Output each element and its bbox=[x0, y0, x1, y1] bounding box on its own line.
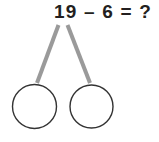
number-bond-worksheet: 19 – 6 = ? bbox=[0, 0, 159, 142]
branch-lines bbox=[37, 25, 90, 83]
part-circles bbox=[13, 85, 114, 129]
right-part-circle[interactable] bbox=[70, 85, 113, 128]
right-branch-line bbox=[68, 25, 91, 83]
number-bond-diagram bbox=[0, 0, 159, 142]
left-part-circle[interactable] bbox=[13, 85, 57, 129]
left-branch-line bbox=[37, 25, 59, 83]
